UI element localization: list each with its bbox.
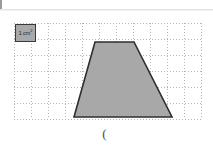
caption-text: (	[102, 126, 106, 142]
trapezoid-shape	[74, 42, 172, 117]
worksheet-page: 1 cm2 (	[0, 0, 213, 149]
caption-row: (	[0, 126, 213, 142]
